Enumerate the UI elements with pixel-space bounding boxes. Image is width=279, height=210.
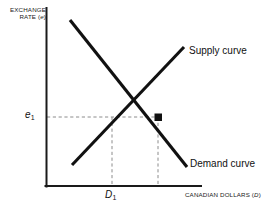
y-axis-title-close: ) — [44, 13, 46, 20]
demand-curve — [70, 20, 187, 167]
y-axis-value-label: e1 — [25, 109, 34, 121]
x-axis-title-text: CANADIAN DOLLARS ( — [185, 191, 254, 198]
y-axis-title: EXCHANGERATE (e) — [2, 6, 46, 20]
demand-point-marker-icon — [155, 114, 163, 122]
x-axis-value-label: D1 — [105, 189, 116, 201]
supply-curve — [72, 47, 184, 165]
supply-curve-label: Supply curve — [189, 45, 247, 57]
y-axis-title-line1: EXCHANGE — [10, 6, 46, 13]
y-axis-value-subscript: 1 — [31, 114, 35, 121]
diagram-canvas — [0, 0, 279, 210]
x-axis-title: CANADIAN DOLLARS (D) — [185, 191, 261, 198]
x-axis-title-close: ) — [259, 191, 261, 198]
y-axis-title-line2: RATE ( — [19, 13, 40, 20]
demand-curve-label: Demand curve — [190, 158, 255, 170]
x-axis-value-subscript: 1 — [113, 194, 117, 201]
guide-lines — [47, 117, 158, 186]
exchange-rate-diagram: EXCHANGERATE (e) CANADIAN DOLLARS (D) Su… — [0, 0, 279, 210]
y-axis-value-symbol: e — [25, 109, 31, 120]
x-axis-value-symbol: D — [105, 189, 112, 200]
axes — [46, 8, 202, 187]
